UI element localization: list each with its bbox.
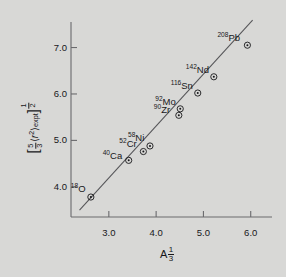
y-tick-label: 7.0 [41, 43, 67, 53]
data-point-label: 40Ca [103, 150, 123, 161]
x-axis-label: A13 [160, 249, 175, 266]
element-symbol: Ca [110, 151, 122, 162]
y-tick-label: 4.0 [41, 182, 67, 192]
x-tick-label: 6.0 [237, 228, 265, 238]
data-point-label: 92Mo [155, 96, 176, 107]
isotope-mass-number: 116 [171, 79, 182, 86]
y-axis-subscript: expt [31, 113, 40, 127]
y-axis-label-outer-exponent: 12 [20, 102, 36, 108]
isotope-mass-number: 208 [217, 31, 228, 38]
y-tick-marks [71, 48, 77, 187]
element-symbol: O [78, 183, 85, 194]
isotope-mass-number: 40 [103, 149, 110, 156]
x-tick-marks [109, 211, 251, 217]
y-tick-label: 6.0 [41, 89, 67, 99]
x-tick-label: 4.0 [142, 228, 170, 238]
element-symbol: Pb [228, 32, 240, 43]
y-axis-angle-open: ⟨ [29, 138, 40, 142]
y-axis-label-bracket-close: ] [24, 109, 41, 113]
data-point-center [149, 145, 151, 147]
y-axis-r-symbol: r [29, 135, 40, 138]
y-axis-label-bracket-open: [ [24, 149, 41, 153]
isotope-mass-number: 92 [155, 95, 162, 102]
data-point-center [128, 159, 130, 161]
y-axis-label-fraction: 53 [28, 143, 44, 149]
x-axis-exp-denominator: 3 [168, 255, 174, 263]
y-axis-r-exponent: 2 [28, 131, 35, 135]
x-tick-label: 3.0 [95, 228, 123, 238]
figure-container: 7.06.05.04.0 3.04.05.06.0 18O40Ca52Cr58N… [0, 0, 286, 277]
data-point-center [213, 76, 215, 78]
data-point-center [90, 196, 92, 198]
x-tick-label: 5.0 [189, 228, 217, 238]
element-symbol: Nd [197, 64, 209, 75]
data-point-label: 116Sn [171, 80, 193, 91]
element-symbol: Mo [163, 96, 176, 107]
isotope-mass-number: 52 [119, 137, 126, 144]
data-point-center [197, 92, 199, 94]
axes-group [71, 22, 272, 217]
element-symbol: Sn [181, 80, 193, 91]
x-axis-label-exponent: 13 [168, 246, 174, 263]
isotope-mass-number: 142 [186, 63, 197, 70]
element-symbol: Ni [135, 132, 144, 143]
data-point-label: 208Pb [217, 32, 240, 43]
data-point-label: 58Ni [128, 132, 144, 143]
data-point-center [179, 108, 181, 110]
y-axis-label: [53⟨r2⟩expt]12 [24, 68, 43, 188]
x-axis-label-base: A [160, 248, 167, 260]
y-axis-angle-close: ⟩ [29, 127, 40, 131]
data-point-label: 18O [71, 183, 86, 194]
y-tick-label: 5.0 [41, 135, 67, 145]
data-point-center [142, 151, 144, 153]
data-point-center [246, 44, 248, 46]
data-point-label: 142Nd [186, 64, 209, 75]
y-axis-exp-denominator: 2 [29, 102, 37, 108]
y-axis-frac-denominator: 3 [36, 143, 44, 149]
data-points [88, 42, 251, 200]
data-point-center [178, 114, 180, 116]
